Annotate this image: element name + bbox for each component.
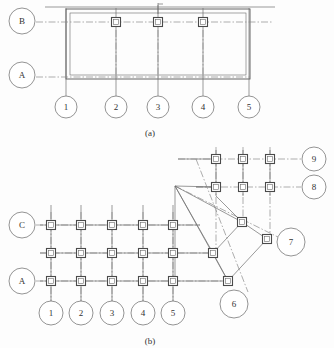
figure-b-column xyxy=(266,155,275,164)
figure-b-column xyxy=(139,221,148,230)
figure-b-column xyxy=(169,221,178,230)
figure-b-column xyxy=(47,277,56,286)
technical-drawing-canvas: B A 1 2 3 4 xyxy=(0,0,334,348)
figure-b-column xyxy=(212,183,221,192)
figure-b-column xyxy=(239,155,248,164)
grid-bubble-label: 3 xyxy=(156,102,161,112)
grid-bubble-5[interactable]: 5 xyxy=(161,301,185,325)
figure-b-column xyxy=(224,277,233,286)
grid-bubble-label: A xyxy=(19,70,26,80)
grid-bubble-A[interactable]: A xyxy=(9,62,35,88)
grid-bubble-label: 6 xyxy=(232,299,237,309)
figure-b-column xyxy=(47,249,56,258)
grid-bubble-label: 7 xyxy=(289,237,294,247)
grid-bubble-label: C xyxy=(19,220,25,230)
figure-b-column xyxy=(108,249,117,258)
grid-bubble-label: 2 xyxy=(79,308,84,318)
figure-b-column xyxy=(212,155,221,164)
grid-bubble-label: 5 xyxy=(171,308,176,318)
grid-bubble-label: 4 xyxy=(201,102,206,112)
grid-bubble-B[interactable]: B xyxy=(9,8,35,34)
grid-bubble-label: 1 xyxy=(49,308,54,318)
figure-b-column xyxy=(169,277,178,286)
grid-bubble-4[interactable]: 4 xyxy=(192,96,214,118)
figure-b-column xyxy=(108,277,117,286)
grid-bubble-label: A xyxy=(19,276,26,286)
grid-bubble-4[interactable]: 4 xyxy=(131,301,155,325)
figure-a-column xyxy=(112,18,121,27)
figure-b-brace xyxy=(228,239,267,281)
drawing-sheet: B A 1 2 3 4 xyxy=(0,0,334,348)
grid-bubble-label: 9 xyxy=(312,154,317,164)
figure-b-column xyxy=(239,183,248,192)
grid-bubble-6[interactable]: 6 xyxy=(220,290,248,318)
figure-b-group: 9 8 C A 7 6 xyxy=(9,147,326,346)
figure-b-caption: (b) xyxy=(145,336,156,346)
grid-bubble-3[interactable]: 3 xyxy=(100,301,124,325)
grid-bubble-A[interactable]: A xyxy=(9,268,35,294)
figure-b-column xyxy=(139,249,148,258)
figure-b-column xyxy=(209,249,218,258)
grid-bubble-label: 2 xyxy=(114,102,119,112)
figure-b-column xyxy=(238,218,247,227)
grid-bubble-8[interactable]: 8 xyxy=(302,175,326,199)
figure-b-column xyxy=(263,235,272,244)
grid-bubble-5[interactable]: 5 xyxy=(238,96,260,118)
grid-bubble-1[interactable]: 1 xyxy=(39,301,63,325)
figure-a-group: B A 1 2 3 4 xyxy=(9,3,275,138)
grid-bubble-7[interactable]: 7 xyxy=(277,228,305,256)
grid-bubble-label: 8 xyxy=(312,182,317,192)
figure-b-brace xyxy=(175,186,216,187)
grid-bubble-label: 5 xyxy=(247,102,252,112)
figure-b-column xyxy=(47,221,56,230)
figure-b-angled-axis-7 xyxy=(175,186,290,243)
grid-bubble-label: B xyxy=(19,16,25,26)
figure-b-column xyxy=(139,277,148,286)
figure-a-column xyxy=(199,18,208,27)
figure-a-caption: (a) xyxy=(145,128,155,138)
grid-bubble-3[interactable]: 3 xyxy=(147,96,169,118)
figure-b-column xyxy=(169,249,178,258)
grid-bubble-2[interactable]: 2 xyxy=(69,301,93,325)
figure-b-column xyxy=(77,221,86,230)
grid-bubble-C[interactable]: C xyxy=(9,212,35,238)
figure-b-column xyxy=(108,221,117,230)
grid-bubble-label: 1 xyxy=(64,102,69,112)
figure-a-column xyxy=(154,18,163,27)
figure-b-column xyxy=(77,277,86,286)
figure-b-column xyxy=(77,249,86,258)
grid-bubble-label: 4 xyxy=(141,308,146,318)
grid-bubble-label: 3 xyxy=(110,308,115,318)
grid-bubble-1[interactable]: 1 xyxy=(55,96,77,118)
grid-bubble-2[interactable]: 2 xyxy=(105,96,127,118)
grid-bubble-9[interactable]: 9 xyxy=(302,147,326,171)
figure-b-column xyxy=(266,183,275,192)
